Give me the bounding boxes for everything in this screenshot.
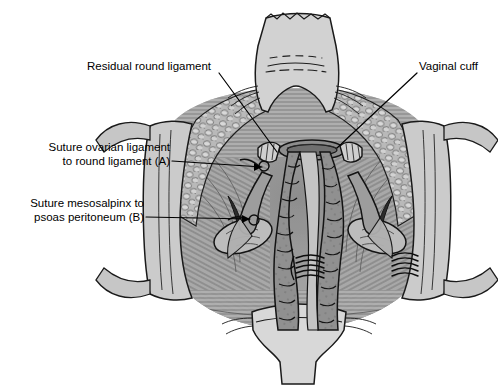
label-suture-a-line2: to round ligament (A) [42, 154, 170, 168]
label-suture-ovarian-to-round-ligament-a: Suture ovarian ligament to round ligamen… [42, 140, 170, 168]
leader-suture-a [172, 161, 262, 167]
label-vaginal-cuff-line1: Vaginal cuff [419, 59, 478, 73]
label-residual-round-ligament-line1: Residual round ligament [87, 59, 211, 73]
leader-vaginal-cuff [337, 73, 417, 148]
leader-lines [0, 0, 498, 386]
leader-residual-round-ligament [219, 73, 277, 152]
label-suture-a-line1: Suture ovarian ligament [42, 140, 170, 154]
label-suture-b-line1: Suture mesosalpinx to [13, 196, 144, 210]
leader-arrowheads [242, 163, 262, 223]
leader-suture-b [146, 217, 250, 219]
label-suture-mesosalpinx-to-psoas-peritoneum-b: Suture mesosalpinx to psoas peritoneum (… [13, 196, 144, 224]
surgical-illustration-figure: Residual round ligament Vaginal cuff Sut… [0, 0, 498, 386]
label-residual-round-ligament: Residual round ligament [87, 59, 211, 73]
label-vaginal-cuff: Vaginal cuff [419, 59, 478, 73]
label-suture-b-line2: psoas peritoneum (B) [13, 210, 144, 224]
